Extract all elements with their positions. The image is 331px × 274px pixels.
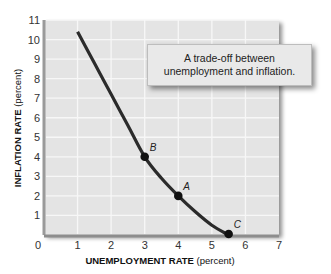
y-tick-label: 5 — [34, 131, 40, 143]
x-tick-label: 7 — [276, 239, 282, 251]
y-axis-ticks: 1234567891011 — [28, 14, 40, 221]
x-tick-label: 3 — [142, 239, 148, 251]
y-tick-label: 4 — [34, 151, 40, 163]
data-point-c — [224, 230, 233, 239]
data-point-a — [174, 192, 183, 201]
x-axis-title: UNEMPLOYMENT RATE (percent) — [85, 255, 234, 266]
x-axis-title-unit: (percent) — [194, 255, 235, 266]
x-axis-ticks: 01234567 — [35, 239, 282, 251]
annotation-line-1: A trade-off between — [164, 52, 295, 65]
y-tick-label: 10 — [28, 34, 40, 46]
y-axis-title-bold: INFLATION RATE — [12, 109, 23, 187]
phillips-curve-chart: BAC 01234567 1234567891011 UNEMPLOYMENT … — [0, 0, 331, 274]
y-tick-label: 8 — [34, 73, 40, 85]
point-label-c: C — [234, 219, 242, 230]
y-tick-label: 1 — [34, 209, 40, 221]
point-label-b: B — [150, 142, 157, 153]
data-point-b — [140, 153, 149, 162]
x-tick-label: 4 — [175, 239, 181, 251]
y-axis-title: INFLATION RATE (percent) — [12, 69, 23, 187]
y-axis-title-unit: (percent) — [12, 69, 23, 110]
y-tick-label: 11 — [29, 14, 40, 26]
x-tick-label: 2 — [108, 239, 114, 251]
x-tick-label: 0 — [35, 239, 41, 251]
y-tick-label: 3 — [34, 170, 40, 182]
x-axis-title-bold: UNEMPLOYMENT RATE — [85, 255, 194, 266]
x-tick-label: 1 — [75, 239, 81, 251]
y-tick-label: 9 — [34, 53, 40, 65]
x-tick-label: 5 — [209, 239, 215, 251]
x-tick-label: 6 — [242, 239, 248, 251]
annotation-line-2: unemployment and inflation. — [164, 65, 295, 78]
y-tick-label: 7 — [34, 92, 40, 104]
y-tick-label: 6 — [34, 112, 40, 124]
annotation-callout: A trade-off between unemployment and inf… — [147, 44, 312, 86]
y-tick-label: 2 — [34, 190, 40, 202]
point-label-a: A — [182, 181, 190, 192]
